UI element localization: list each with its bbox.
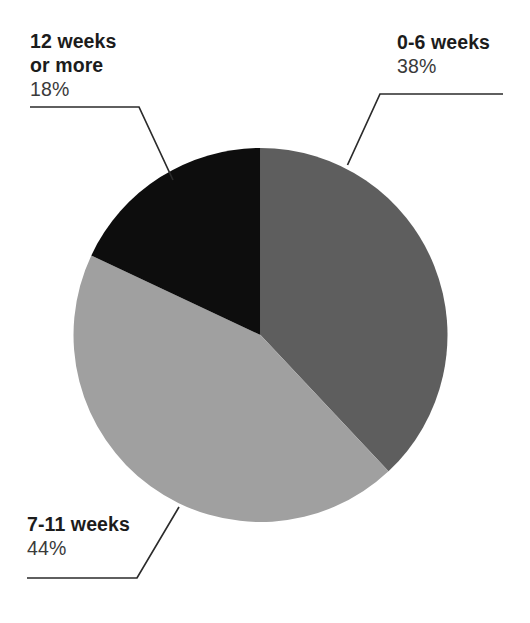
callout-0-6-weeks: 0-6 weeks 38% xyxy=(397,31,490,79)
callout-percent-7-11-weeks: 44% xyxy=(27,537,130,561)
pie-chart-figure: 0-6 weeks 38% 12 weeks or more 18% 7-11 … xyxy=(0,0,530,623)
pie-slices xyxy=(74,148,448,522)
callout-label-12-weeks-line2: or more xyxy=(30,54,116,78)
callout-7-11-weeks: 7-11 weeks 44% xyxy=(27,513,130,561)
callout-percent-0-6-weeks: 38% xyxy=(397,55,490,79)
callout-label-12-weeks-line1: 12 weeks xyxy=(30,30,116,54)
callout-label-0-6-weeks: 0-6 weeks xyxy=(397,31,490,55)
callout-label-7-11-weeks: 7-11 weeks xyxy=(27,513,130,537)
leader-line-12-weeks-or-more xyxy=(30,107,173,180)
callout-12-weeks-or-more: 12 weeks or more 18% xyxy=(30,30,116,101)
leader-line-0-6-weeks xyxy=(348,94,504,165)
callout-percent-12-weeks-or-more: 18% xyxy=(30,78,116,102)
